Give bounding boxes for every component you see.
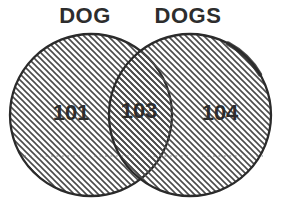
set-title-dog: DOG [59,3,111,28]
region-count-intersection: 103 [121,98,158,123]
venn-diagram-canvas: DOG DOGS 101 103 104 [0,0,283,210]
region-count-dogs-only: 104 [202,100,239,125]
set-title-dogs: DOGS [155,3,222,28]
region-count-dog-only: 101 [53,100,90,125]
venn-diagram-page: DOG DOGS 101 103 104 [0,0,283,210]
